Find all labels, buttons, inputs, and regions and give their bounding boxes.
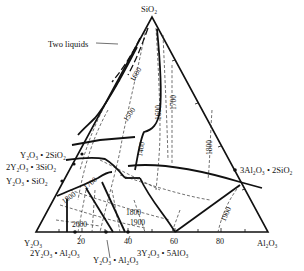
tick-80: 80 <box>216 237 224 246</box>
isotherm-1900-bottom: 1900 <box>130 218 145 227</box>
isotherm-1700-lower: 1700 <box>82 175 99 192</box>
isotherm-1800-right: 1800 <box>205 140 214 155</box>
phase-boundaries <box>57 29 262 232</box>
label-two-liquids: Two liquids <box>48 39 88 49</box>
isotherm-1700-upper: 1700 <box>169 95 178 110</box>
tick-60: 60 <box>170 237 178 246</box>
tick-20: 20 <box>77 237 85 246</box>
isotherm-1600-left: 1600 <box>128 65 143 83</box>
vertex-label-al2o3: Al₂O₃ <box>257 238 278 248</box>
label-y2o3-al2o3: Y₂O₃ • Al₂O₃ <box>93 255 139 265</box>
isotherm-2000: 2000 <box>72 220 87 229</box>
label-2y2o3-al2o3: 2Y₂O₃ • Al₂O₃ <box>30 248 80 258</box>
label-2y2o3-3sio2: 2Y₂O₃ • 3SiO₂ <box>6 162 56 172</box>
isotherm-1400: 1400 <box>135 141 147 158</box>
isotherm-1600-center: 1600 <box>154 105 163 120</box>
isotherm-1800-bottom: 1800 <box>126 208 141 217</box>
label-3y2o3-5alo3: 3Y₂O₃ • 5AlO₃ <box>137 248 189 258</box>
label-3al2o3-2sio2: 3Al₂O₃ • 2SiO₂ <box>240 165 293 175</box>
label-y2o3-2sio2: Y₂O₃ • 2SiO₂ <box>20 150 66 160</box>
label-y2o3-sio2: Y₂O₃ • SiO₂ <box>6 176 48 186</box>
vertex-label-sio2: SiO₂ <box>141 4 157 14</box>
tick-40: 40 <box>124 237 132 246</box>
isotherm-1900-right: 1900 <box>219 205 234 223</box>
ternary-phase-diagram: SiO₂ Y₂O₃ Al₂O₃ 20 40 60 80 Y₂O₃ • 2SiO₂… <box>0 0 304 271</box>
vertex-label-y2o3: Y₂O₃ <box>24 238 42 248</box>
isotherm-1500: 1500 <box>121 105 137 123</box>
